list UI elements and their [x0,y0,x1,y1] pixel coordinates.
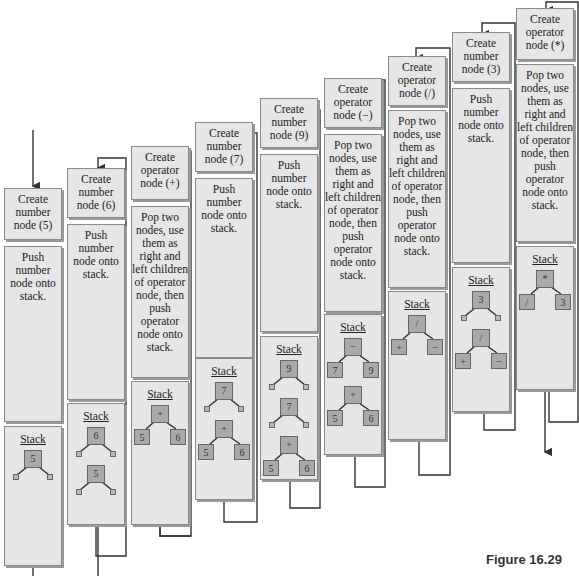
stack-title: Stack [196,365,252,378]
expression-tree: 5 [7,450,59,482]
action-label: Push number node onto stack. [453,93,509,145]
expression-tree: 3 [455,291,507,323]
stack-title: Stack [517,253,573,266]
stack-title: Stack [132,388,188,401]
stack-title: Stack [68,410,124,423]
empty-child-slot [303,422,309,428]
tree-root-node: 5 [87,465,105,483]
create-node-label: Create operator node (*) [517,13,573,52]
stack-title: Stack [261,343,317,356]
create-node-box: Create number node (6) [67,168,125,218]
empty-child-slot [76,451,82,457]
tree-left-child-node: 5 [327,410,343,426]
tree-right-child-node: 3 [555,294,571,310]
empty-child-slot [110,489,116,495]
stack-box: Stack65 [67,403,125,525]
expression-tree: +56 [263,436,315,478]
action-box: Push number node onto stack. [195,178,253,358]
tree-right-child-node: 6 [363,410,379,426]
expression-tree: */3 [519,270,571,312]
action-label: Pop two nodes, use them as right and lef… [389,115,445,258]
expression-tree: 9 [263,360,315,392]
expression-tree: 7 [198,382,250,414]
action-label: Push number node onto stack. [196,183,252,235]
empty-child-slot [13,474,19,480]
tree-right-child-node: 6 [234,444,250,460]
stack-box: Stack7+56 [195,358,253,500]
action-label: Push number node onto stack. [5,251,61,303]
expression-tree: −79 [327,338,379,380]
tree-left-child-node: 5 [198,444,214,460]
stack-title: Stack [389,298,445,311]
create-node-box: Create operator node (−) [324,78,382,128]
empty-child-slot [269,422,275,428]
tree-left-child-node: 7 [327,362,343,378]
create-node-label: Create operator node (/) [389,61,445,100]
tree-root-node: 3 [472,291,490,309]
stack-box: Stack5 [4,426,62,566]
create-node-label: Create number node (9) [261,103,317,142]
tree-root-node: 6 [87,427,105,445]
tree-left-child-node: + [455,353,471,369]
expression-tree: 7 [263,398,315,430]
create-node-label: Create number node (3) [453,37,509,76]
stack-title: Stack [5,433,61,446]
action-box: Pop two nodes, use them as right and lef… [516,64,574,242]
stack-box: Stack97+56 [260,336,318,480]
tree-right-child-node: 9 [363,362,379,378]
expression-tree: /+− [455,329,507,371]
create-node-box: Create operator node (*) [516,8,574,60]
action-label: Push number node onto stack. [261,159,317,211]
tree-root-node: + [280,436,298,454]
figure-caption: Figure 16.29 [486,552,562,567]
tree-left-child-node: 5 [134,429,150,445]
create-node-box: Create operator node (/) [388,56,446,106]
create-node-box: Create number node (3) [452,32,510,82]
action-label: Pop two nodes, use them as right and lef… [517,69,573,212]
create-node-box: Create operator node (+) [131,146,189,200]
tree-right-child-node: − [491,353,507,369]
empty-child-slot [47,474,53,480]
action-box: Push number node onto stack. [4,246,62,422]
empty-child-slot [269,384,275,390]
empty-child-slot [461,315,467,321]
tree-left-child-node: 5 [263,460,279,476]
action-label: Pop two nodes, use them as right and lef… [325,139,381,282]
tree-root-node: 9 [280,360,298,378]
action-box: Pop two nodes, use them as right and lef… [324,134,382,312]
action-box: Push number node onto stack. [452,88,510,263]
empty-child-slot [238,406,244,412]
create-node-box: Create number node (9) [260,98,318,148]
stack-box: Stack3/+− [452,267,510,412]
empty-child-slot [110,451,116,457]
stack-title: Stack [453,274,509,287]
stack-box: Stack/+− [388,291,446,440]
create-node-label: Create number node (6) [68,173,124,212]
action-box: Push number node onto stack. [67,224,125,400]
stack-title: Stack [325,321,381,334]
tree-root-node: − [344,338,362,356]
tree-root-node: / [408,315,426,333]
action-label: Push number node onto stack. [68,229,124,281]
create-node-label: Create number node (5) [5,193,61,232]
action-box: Pop two nodes, use them as right and lef… [131,206,189,378]
tree-right-child-node: 6 [299,460,315,476]
expression-tree: +56 [198,420,250,462]
tree-root-node: 5 [24,450,42,468]
create-node-box: Create number node (5) [4,188,62,240]
tree-root-node: 7 [215,382,233,400]
empty-child-slot [76,489,82,495]
tree-root-node: 7 [280,398,298,416]
create-node-label: Create operator node (+) [132,151,188,190]
stack-box: Stack−79+56 [324,314,382,455]
tree-right-child-node: 6 [170,429,186,445]
create-node-box: Create number node (7) [195,122,253,172]
tree-root-node: * [536,270,554,288]
stack-box: Stack+56 [131,381,189,525]
empty-child-slot [495,315,501,321]
action-box: Push number node onto stack. [260,154,318,332]
action-label: Pop two nodes, use them as right and lef… [132,211,188,354]
expression-tree: /+− [391,315,443,357]
tree-root-node: + [215,420,233,438]
tree-root-node: + [151,405,169,423]
